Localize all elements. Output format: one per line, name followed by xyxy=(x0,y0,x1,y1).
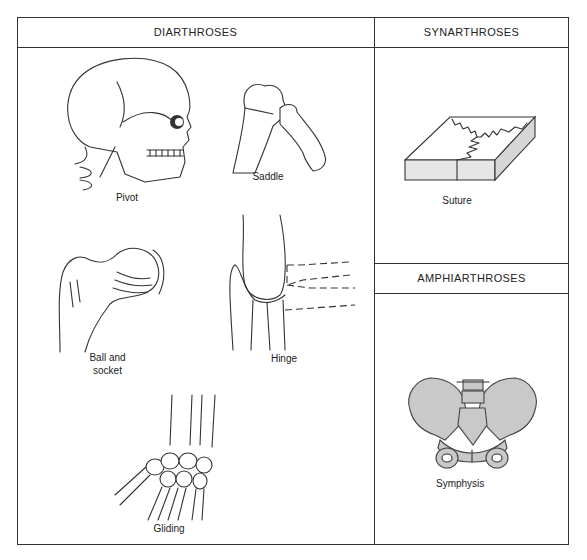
synarthroses-header: SYNARTHROSES xyxy=(374,17,569,47)
suture-label: Suture xyxy=(440,194,474,207)
header-divider xyxy=(17,47,569,48)
amphiarthroses-header-divider xyxy=(374,293,569,294)
hinge-label: Hinge xyxy=(270,352,298,365)
gliding-label: Gliding xyxy=(152,522,186,535)
hinge-joint-illustration xyxy=(225,210,365,350)
suture-joint-illustration xyxy=(405,115,540,185)
gliding-joint-illustration xyxy=(110,395,220,520)
pivot-joint-illustration xyxy=(55,52,195,197)
ball-and-socket-label-line1: Ball and xyxy=(85,351,130,364)
ball-and-socket-label-line2: socket xyxy=(85,364,130,377)
amphiarthroses-header: AMPHIARTHROSES xyxy=(374,263,569,293)
symphysis-joint-illustration xyxy=(405,370,540,475)
saddle-joint-illustration xyxy=(225,78,335,178)
symphysis-label: Symphysis xyxy=(436,477,482,490)
saddle-label: Saddle xyxy=(250,170,286,183)
diarthroses-header: DIARTHROSES xyxy=(17,17,374,47)
pivot-label: Pivot xyxy=(112,191,142,204)
ball-and-socket-joint-illustration xyxy=(55,232,175,357)
